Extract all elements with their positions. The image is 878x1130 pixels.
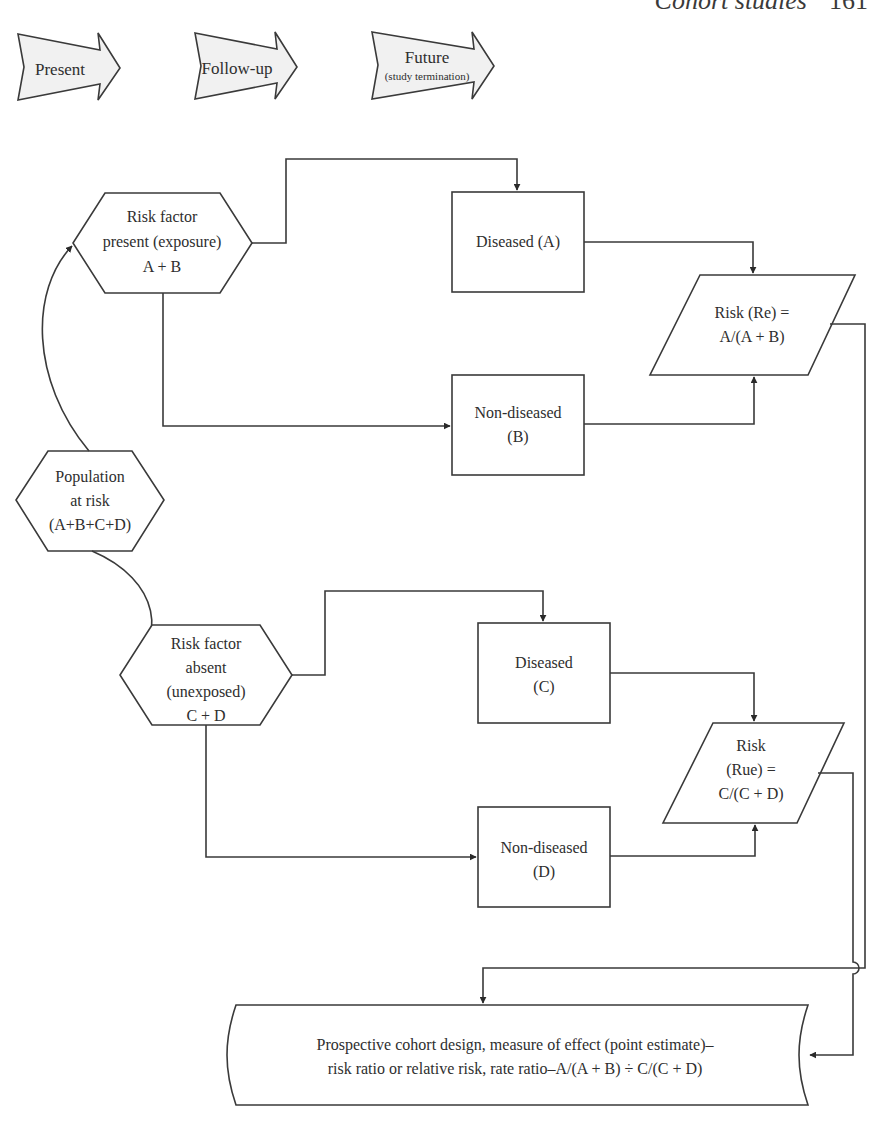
svg-text:at risk: at risk: [70, 492, 110, 509]
svg-text:Diseased: Diseased: [515, 654, 573, 671]
node-unexposed: Risk factor absent (unexposed) C + D: [120, 625, 292, 725]
svg-text:Population: Population: [55, 468, 124, 486]
svg-text:(C): (C): [533, 678, 554, 696]
svg-text:Diseased (A): Diseased (A): [476, 233, 560, 251]
svg-text:(D): (D): [533, 863, 555, 881]
timeline-sublabel: (study termination): [385, 70, 470, 83]
svg-text:Risk factor: Risk factor: [171, 635, 242, 652]
svg-text:(unexposed): (unexposed): [166, 683, 245, 701]
curved-connector: [42, 246, 89, 451]
svg-text:A + B: A + B: [143, 258, 181, 275]
svg-text:C + D: C + D: [186, 707, 225, 724]
node-population: Population at risk (A+B+C+D): [16, 451, 164, 551]
svg-text:Non-diseased: Non-diseased: [474, 404, 561, 421]
svg-text:Risk factor: Risk factor: [127, 208, 198, 225]
timeline-follow-up: Follow-up: [195, 32, 297, 99]
svg-text:(Rue) =: (Rue) =: [726, 761, 775, 779]
timeline-present: Present: [18, 33, 120, 100]
node-risk-rue: Risk (Rue) = C/(C + D): [663, 723, 844, 823]
timeline-label: Future: [405, 48, 449, 67]
svg-text:(B): (B): [507, 428, 528, 446]
svg-text:Prospective cohort design, mea: Prospective cohort design, measure of ef…: [317, 1036, 715, 1054]
cohort-flow-diagram: Present Follow-up Future (study terminat…: [0, 0, 878, 1130]
timeline-label: Present: [35, 60, 85, 79]
svg-text:Risk (Re) =: Risk (Re) =: [715, 304, 790, 322]
timeline-future: Future (study termination): [372, 32, 494, 99]
node-result: Prospective cohort design, measure of ef…: [227, 1005, 808, 1105]
connector: [206, 725, 476, 857]
connector: [584, 377, 754, 424]
node-diseased-a: Diseased (A): [452, 192, 584, 292]
timeline-label: Follow-up: [202, 59, 273, 78]
svg-text:present (exposure): present (exposure): [103, 233, 222, 251]
svg-text:absent: absent: [186, 659, 227, 676]
connector: [610, 825, 755, 856]
svg-text:Non-diseased: Non-diseased: [500, 839, 587, 856]
svg-text:A/(A + B): A/(A + B): [719, 328, 784, 346]
connector: [810, 773, 859, 1055]
node-nondiseased-b: Non-diseased (B): [452, 375, 584, 475]
connector: [163, 293, 450, 426]
svg-text:Risk: Risk: [736, 737, 765, 754]
node-diseased-c: Diseased (C): [478, 623, 610, 723]
svg-text:(A+B+C+D): (A+B+C+D): [49, 516, 131, 534]
svg-text:C/(C + D): C/(C + D): [718, 785, 783, 803]
connector: [584, 242, 753, 273]
svg-text:risk ratio or relative risk, r: risk ratio or relative risk, rate ratio–…: [328, 1060, 703, 1078]
node-risk-re: Risk (Re) = A/(A + B): [650, 275, 855, 375]
node-exposed: Risk factor present (exposure) A + B: [73, 193, 252, 293]
connector: [610, 673, 754, 721]
figure-page: Cohort studies161 Present Follow-up Futu…: [0, 0, 878, 1130]
node-nondiseased-d: Non-diseased (D): [478, 807, 610, 907]
